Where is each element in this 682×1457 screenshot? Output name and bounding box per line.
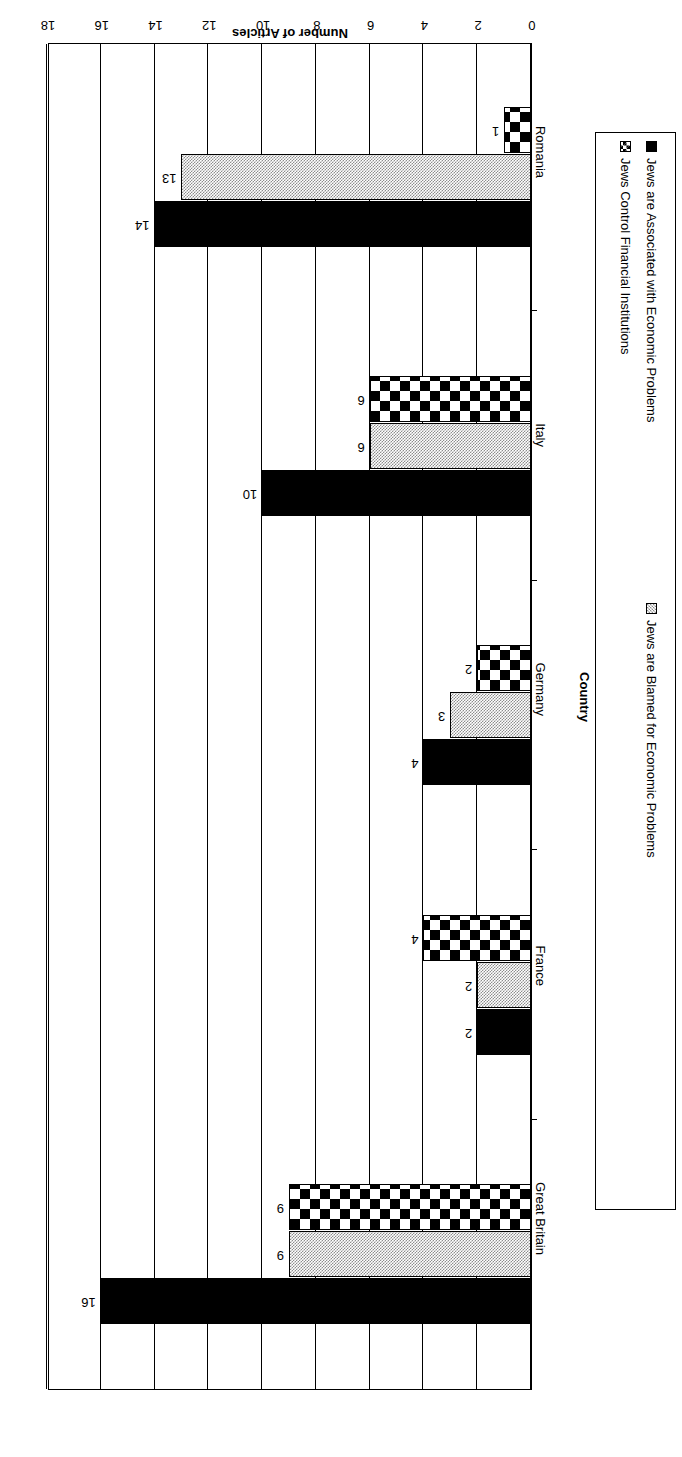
bar[interactable]: [477, 1009, 531, 1055]
legend-item[interactable]: Jews are Associated with Economic Proble…: [644, 141, 659, 422]
bar-value-label: 6: [357, 440, 364, 455]
bar-row: [49, 1184, 531, 1230]
value-tick-label: 6: [367, 18, 374, 33]
bar-value-label: 10: [243, 487, 257, 502]
bar[interactable]: [181, 154, 531, 200]
value-tick-label: 2: [475, 18, 482, 33]
bar-value-label: 4: [411, 931, 418, 946]
bar-row: [49, 915, 531, 961]
bar[interactable]: [370, 423, 531, 469]
bar[interactable]: [289, 1184, 531, 1230]
bar-row: [49, 376, 531, 422]
bar[interactable]: [370, 376, 531, 422]
legend-swatch-icon: [646, 141, 657, 152]
value-tick-label: 0: [528, 18, 535, 33]
value-tick-label: 4: [421, 18, 428, 33]
bar-chart-figure: Number of Articles Country Jews are Asso…: [0, 0, 682, 1457]
legend-item-label: Jews Control Financial Institutions: [618, 158, 633, 355]
legend-item-label: Jews are Associated with Economic Proble…: [644, 158, 659, 422]
category-axis-title: Country: [577, 672, 592, 722]
chart-legend: Jews are Associated with Economic Proble…: [595, 132, 676, 1210]
legend-item-label: Jews are Blamed for Economic Problems: [644, 620, 659, 858]
bar-row: [49, 1231, 531, 1277]
value-tick-label: 16: [95, 18, 109, 33]
bar[interactable]: [262, 470, 531, 516]
bar[interactable]: [289, 1231, 531, 1277]
value-tick-label: 10: [256, 18, 270, 33]
category-tick-mark: [531, 310, 537, 311]
bar[interactable]: [477, 646, 531, 692]
category-tick-mark: [531, 580, 537, 581]
category-tick-label: Romania: [533, 126, 548, 178]
bar[interactable]: [504, 107, 531, 153]
bar[interactable]: [423, 740, 531, 786]
bar-value-label: 4: [411, 756, 418, 771]
category-tick-label: Italy: [533, 423, 548, 447]
gridline: [46, 44, 47, 1389]
value-tick-label: 12: [202, 18, 216, 33]
bar-value-label: 2: [465, 1025, 472, 1040]
bar-row: [49, 1009, 531, 1055]
category-tick-label: France: [533, 945, 548, 985]
bar-value-label: 9: [277, 1248, 284, 1263]
bar-row: [49, 962, 531, 1008]
legend-swatch-icon: [646, 603, 657, 614]
bar[interactable]: [101, 1278, 531, 1324]
bar[interactable]: [155, 201, 531, 247]
bar-value-label: 13: [162, 170, 176, 185]
category-tick-mark: [531, 1119, 537, 1120]
bar-value-label: 9: [277, 1201, 284, 1216]
category-tick-label: Germany: [533, 663, 548, 716]
bar-value-label: 2: [465, 662, 472, 677]
bar-row: [49, 646, 531, 692]
bar[interactable]: [450, 693, 531, 739]
bar-row: [49, 693, 531, 739]
bar-value-label: 2: [465, 978, 472, 993]
bar-row: [49, 201, 531, 247]
category-tick-mark: [531, 849, 537, 850]
value-tick-label: 18: [41, 18, 55, 33]
bar-value-label: 14: [135, 217, 149, 232]
legend-item[interactable]: Jews Control Financial Institutions: [618, 141, 633, 355]
legend-swatch-icon: [620, 141, 631, 152]
bar-value-label: 3: [438, 709, 445, 724]
plot-area: [48, 43, 532, 1390]
bar[interactable]: [477, 962, 531, 1008]
chart-figure-rotator: Number of Articles Country Jews are Asso…: [0, 0, 682, 1457]
bar-row: [49, 423, 531, 469]
bar-row: [49, 1278, 531, 1324]
bar-row: [49, 154, 531, 200]
value-tick-label: 14: [148, 18, 162, 33]
bar-row: [49, 740, 531, 786]
bar[interactable]: [423, 915, 531, 961]
bar-row: [49, 470, 531, 516]
bar-row: [49, 107, 531, 153]
legend-item[interactable]: Jews are Blamed for Economic Problems: [644, 603, 659, 858]
value-tick-label: 8: [313, 18, 320, 33]
bar-value-label: 6: [357, 393, 364, 408]
bar-value-label: 16: [81, 1295, 95, 1310]
category-tick-label: Great Britain: [533, 1182, 548, 1255]
value-axis-title: Number of Articles: [232, 26, 348, 41]
bar-value-label: 1: [492, 123, 499, 138]
